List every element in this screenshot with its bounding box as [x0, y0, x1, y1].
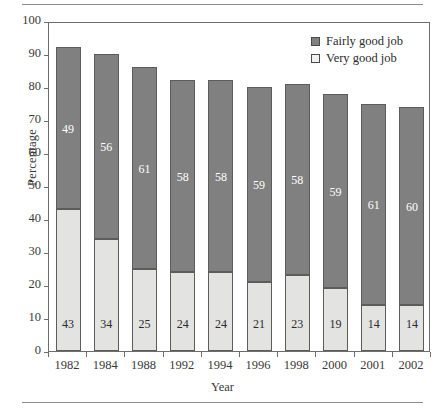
chart-legend: Fairly good jobVery good job [311, 33, 403, 67]
legend-item: Fairly good job [311, 33, 403, 50]
y-axis-tick-label: 80 [29, 80, 42, 93]
bar-segment-very-good-job: 24 [170, 272, 195, 351]
bar-segment-very-good-job: 43 [56, 209, 81, 351]
bar-segment-very-good-job: 25 [132, 269, 157, 352]
x-axis-tick-mark [354, 352, 355, 357]
bar-segment-fairly-good-job: 60 [399, 107, 424, 305]
bar-value-label: 43 [62, 318, 74, 330]
bar-segment-fairly-good-job: 61 [361, 104, 386, 305]
x-axis-tick-label: 1992 [163, 358, 201, 373]
x-axis-tick-label: 1984 [86, 358, 124, 373]
bar-value-label: 14 [368, 318, 380, 330]
y-axis-tick-label: 30 [29, 245, 42, 258]
x-axis-tick-label: 2001 [354, 358, 392, 373]
y-axis-tick-label: 0 [35, 344, 41, 357]
bar-value-label: 23 [291, 318, 303, 330]
bar-segment-fairly-good-job: 58 [208, 80, 233, 271]
x-axis-tick-mark [201, 352, 202, 357]
y-axis-tick-label: 50 [29, 179, 42, 192]
bar-value-label: 56 [100, 141, 112, 153]
x-axis-tick-mark [392, 352, 393, 357]
x-axis-tick-label: 1988 [124, 358, 162, 373]
stacked-bar: 4349 [56, 47, 81, 351]
bar-segment-very-good-job: 24 [208, 272, 233, 351]
x-axis-tick-label: 2002 [392, 358, 430, 373]
legend-item-label: Very good job [326, 51, 397, 66]
bar-value-label: 61 [139, 163, 151, 175]
bar-segment-very-good-job: 34 [94, 239, 119, 351]
bar-value-label: 14 [406, 318, 418, 330]
bar-segment-fairly-good-job: 56 [94, 54, 119, 239]
bar-value-label: 21 [253, 318, 265, 330]
stacked-bar: 1959 [323, 94, 348, 351]
x-axis-tick-label: 1982 [48, 358, 86, 373]
bar-value-label: 34 [100, 318, 112, 330]
x-axis-tick-label: 1998 [277, 358, 315, 373]
y-axis-tick-label: 20 [29, 278, 42, 291]
legend-item: Very good job [311, 50, 403, 67]
stacked-bar: 2458 [208, 80, 233, 351]
x-axis-tick-mark [315, 352, 316, 357]
stacked-bar: 3456 [94, 54, 119, 351]
stacked-bar: 2458 [170, 80, 195, 351]
stacked-bar: 1461 [361, 104, 386, 352]
legend-item-label: Fairly good job [326, 34, 403, 49]
stacked-bar: 1460 [399, 107, 424, 351]
bar-value-label: 19 [330, 318, 342, 330]
x-axis-tick-mark [239, 352, 240, 357]
bar-segment-very-good-job: 21 [247, 282, 272, 351]
bar-segment-fairly-good-job: 59 [247, 87, 272, 282]
x-axis-tick-mark [124, 352, 125, 357]
y-axis-tick-label: 100 [22, 14, 41, 27]
bar-value-label: 58 [215, 171, 227, 183]
bar-value-label: 61 [368, 199, 380, 211]
x-axis-tick-mark [86, 352, 87, 357]
stacked-bar: 2159 [247, 87, 272, 351]
stacked-bar-chart: Percentage Year 0102030405060708090100 1… [0, 0, 445, 413]
y-axis-tick-label: 60 [29, 146, 42, 159]
bar-segment-fairly-good-job: 59 [323, 94, 348, 289]
stacked-bar: 2561 [132, 67, 157, 351]
y-axis-tick-label: 90 [29, 47, 42, 60]
bar-segment-very-good-job: 23 [285, 275, 310, 351]
bar-segment-fairly-good-job: 49 [56, 47, 81, 209]
bar-value-label: 58 [291, 174, 303, 186]
bar-value-label: 24 [215, 318, 227, 330]
bar-segment-very-good-job: 19 [323, 288, 348, 351]
x-axis-tick-label: 2000 [315, 358, 353, 373]
bar-segment-fairly-good-job: 58 [285, 84, 310, 275]
x-axis-tick-label: 1996 [239, 358, 277, 373]
bar-value-label: 25 [139, 318, 151, 330]
bar-segment-fairly-good-job: 61 [132, 67, 157, 268]
y-axis-tick-label: 70 [29, 113, 42, 126]
legend-swatch-icon [311, 37, 320, 46]
stacked-bar: 2358 [285, 84, 310, 351]
y-axis-tick-label: 40 [29, 212, 42, 225]
bar-segment-fairly-good-job: 58 [170, 80, 195, 271]
bar-value-label: 49 [62, 123, 74, 135]
bar-segment-very-good-job: 14 [361, 305, 386, 351]
bar-value-label: 59 [330, 186, 342, 198]
bar-value-label: 59 [253, 179, 265, 191]
bar-value-label: 58 [177, 171, 189, 183]
bar-value-label: 60 [406, 201, 418, 213]
plot-area: 4349345625612458245821592358195914611460 [48, 22, 430, 352]
legend-swatch-icon [311, 54, 320, 63]
bar-value-label: 24 [177, 318, 189, 330]
x-axis-tick-mark [430, 352, 431, 357]
x-axis-title: Year [0, 380, 445, 395]
x-axis-tick-mark [277, 352, 278, 357]
x-axis-tick-mark [48, 352, 49, 357]
x-axis-tick-mark [163, 352, 164, 357]
x-axis-tick-label: 1994 [201, 358, 239, 373]
y-axis-tick-label: 10 [29, 311, 42, 324]
bar-segment-very-good-job: 14 [399, 305, 424, 351]
